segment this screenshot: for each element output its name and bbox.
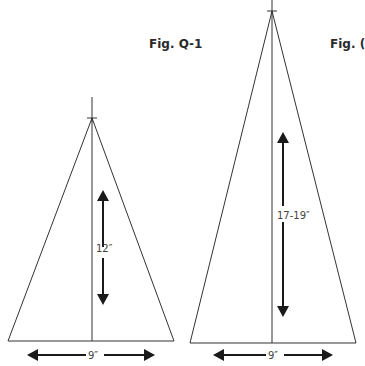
base-label-figure-1: 9″ (88, 350, 98, 361)
triangle-figure-2 (190, 0, 356, 343)
height-label-figure-1: 12″ (96, 243, 113, 254)
triangle-figure-1 (8, 97, 174, 341)
base-label-figure-2: 9″ (268, 350, 278, 361)
height-arrow-figure-2 (277, 132, 289, 317)
height-label-figure-2: 17-19″ (277, 210, 310, 221)
